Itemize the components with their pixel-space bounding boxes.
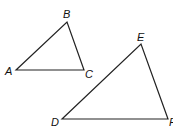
triangle-abc <box>16 22 84 70</box>
triangles-figure: A B C D E F <box>0 0 173 131</box>
triangle-def <box>62 44 168 119</box>
vertex-label-b: B <box>63 8 70 20</box>
vertex-label-e: E <box>137 31 145 43</box>
vertex-label-f: F <box>169 116 173 128</box>
vertex-label-d: D <box>51 116 59 128</box>
vertex-label-a: A <box>4 65 12 77</box>
vertex-label-c: C <box>85 68 93 80</box>
